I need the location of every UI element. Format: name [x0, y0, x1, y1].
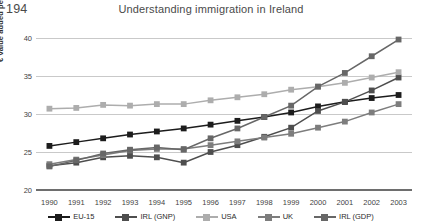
- legend-marker-icon: [258, 212, 280, 221]
- data-point-marker: [288, 125, 294, 131]
- data-point-marker: [396, 101, 402, 107]
- data-point-marker: [181, 101, 187, 107]
- data-point-marker: [100, 151, 106, 157]
- data-point-marker: [181, 160, 187, 166]
- data-point-marker: [261, 114, 267, 120]
- legend-item-eu-15[interactable]: EU-15: [48, 212, 94, 221]
- data-point-marker: [127, 147, 133, 153]
- data-point-marker: [47, 143, 53, 149]
- page-header: 194 Understanding immigration in Ireland: [0, 0, 422, 22]
- legend-marker-icon: [115, 212, 137, 221]
- data-point-marker: [73, 157, 79, 163]
- data-point-marker: [261, 135, 267, 141]
- y-axis-tick-label: 20: [10, 186, 32, 195]
- data-point-marker: [100, 135, 106, 141]
- data-point-marker: [315, 108, 321, 114]
- y-axis-tick-label: 25: [10, 148, 32, 157]
- data-point-marker: [235, 118, 241, 124]
- legend-item-uk[interactable]: UK: [258, 212, 293, 221]
- data-point-marker: [127, 103, 133, 109]
- data-point-marker: [288, 110, 294, 116]
- data-point-marker: [73, 105, 79, 111]
- data-point-marker: [288, 87, 294, 93]
- data-point-marker: [369, 95, 375, 101]
- legend-label: IRL (GNP): [140, 212, 175, 221]
- data-point-marker: [181, 126, 187, 132]
- series-irl-gdp: [47, 37, 402, 170]
- legend-item-irl-gnp[interactable]: IRL (GNP): [115, 212, 175, 221]
- data-point-marker: [127, 132, 133, 138]
- data-point-marker: [369, 110, 375, 116]
- legend-marker-icon: [48, 212, 70, 221]
- legend-item-usa[interactable]: USA: [196, 212, 236, 221]
- data-point-marker: [342, 70, 348, 76]
- y-axis-tick-label: 30: [10, 110, 32, 119]
- legend-marker-icon: [314, 212, 336, 221]
- data-point-marker: [208, 97, 214, 103]
- series-usa: [47, 69, 402, 111]
- legend-item-irl-gdp[interactable]: IRL (GDP): [314, 212, 374, 221]
- data-point-marker: [47, 164, 53, 170]
- data-point-marker: [288, 131, 294, 137]
- data-point-marker: [396, 92, 402, 98]
- data-point-marker: [47, 106, 53, 112]
- y-axis-label: € value added per hour worked: [0, 0, 5, 62]
- data-point-marker: [315, 84, 321, 90]
- data-point-marker: [235, 126, 241, 132]
- data-point-marker: [208, 142, 214, 148]
- data-point-marker: [154, 129, 160, 135]
- legend-label: UK: [283, 212, 293, 221]
- data-point-marker: [342, 99, 348, 105]
- data-point-marker: [396, 37, 402, 43]
- data-point-marker: [342, 80, 348, 86]
- data-point-marker: [396, 69, 402, 75]
- data-point-marker: [127, 153, 133, 159]
- running-head-title: Understanding immigration in Ireland: [0, 3, 422, 15]
- legend-label: USA: [221, 212, 236, 221]
- y-axis-tick-label: 35: [10, 72, 32, 81]
- data-point-marker: [154, 145, 160, 151]
- data-point-marker: [154, 154, 160, 160]
- legend-marker-icon: [196, 212, 218, 221]
- x-axis-tick-label: 2003: [382, 198, 416, 207]
- data-point-marker: [235, 94, 241, 100]
- data-point-marker: [154, 101, 160, 107]
- legend-label: EU-15: [73, 212, 94, 221]
- data-point-marker: [261, 91, 267, 97]
- data-point-marker: [100, 102, 106, 108]
- line-chart-figure: € value added per hour worked 2025303540…: [0, 22, 422, 221]
- data-point-marker: [369, 75, 375, 81]
- y-axis-tick-label: 40: [10, 34, 32, 43]
- data-point-marker: [73, 139, 79, 145]
- data-point-marker: [396, 75, 402, 81]
- legend-label: IRL (GDP): [339, 212, 374, 221]
- data-point-marker: [235, 138, 241, 144]
- chart-series-layer: [36, 38, 412, 190]
- data-point-marker: [315, 125, 321, 131]
- data-point-marker: [208, 135, 214, 141]
- data-point-marker: [342, 119, 348, 125]
- data-point-marker: [369, 53, 375, 59]
- gridline: [36, 190, 412, 191]
- data-point-marker: [181, 147, 187, 153]
- chart-legend: EU-15IRL (GNP)USAUKIRL (GDP): [0, 212, 422, 221]
- data-point-marker: [208, 149, 214, 155]
- data-point-marker: [288, 103, 294, 109]
- data-point-marker: [369, 88, 375, 94]
- data-point-marker: [208, 122, 214, 128]
